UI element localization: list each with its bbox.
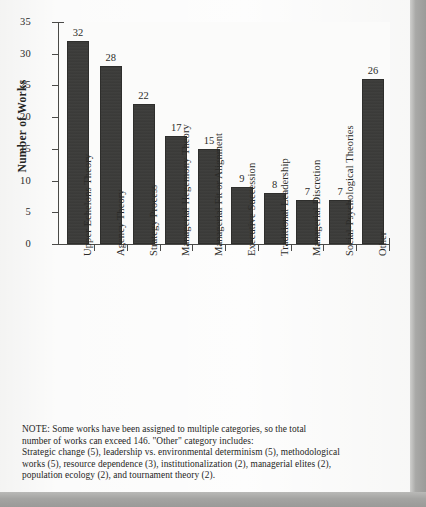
figure-note-line: NOTE: Some works have been assigned to m…: [22, 424, 390, 436]
x-axis-category-label: Managerial Hegemony Theory: [180, 106, 191, 256]
y-axis-line: [58, 22, 59, 245]
y-axis-tick: [52, 22, 58, 23]
x-axis-tick: [323, 245, 324, 251]
x-axis-line: [58, 244, 390, 245]
figure-note-line: population ecology (2), and tournament t…: [22, 470, 390, 482]
bar-value-label: 28: [91, 53, 131, 64]
x-axis-tick: [192, 245, 193, 251]
x-axis-tick: [127, 245, 128, 251]
x-axis-tick: [356, 245, 357, 251]
figure-page: Number of Works 05101520253035 322822171…: [0, 0, 426, 507]
page-edge-right: [410, 0, 426, 492]
x-axis-tick: [94, 245, 95, 251]
y-axis-tick: [52, 244, 58, 245]
x-axis-category-label: Other: [377, 106, 388, 256]
bar-value-label: 26: [353, 66, 393, 77]
bar-value-label: 32: [58, 28, 98, 39]
x-axis-tick: [389, 245, 390, 251]
y-axis-tick: [52, 85, 58, 86]
y-axis-tick-label: 35: [20, 17, 31, 28]
figure-note-line: Strategic change (5), leadership vs. env…: [22, 447, 390, 459]
x-axis-category-label: Traditional Leadership: [279, 106, 290, 256]
y-axis-tick: [52, 54, 58, 55]
x-axis-category-label: Executive Succession: [246, 106, 257, 256]
y-axis-tick: [52, 149, 58, 150]
y-axis-tick-label: 30: [20, 49, 31, 60]
axis-corner-bottom-right: [389, 238, 390, 245]
y-axis-tick: [52, 181, 58, 182]
bar-chart: Number of Works 05101520253035 322822171…: [0, 0, 410, 404]
page-edge-bottom: [0, 492, 426, 507]
x-axis-tick: [258, 245, 259, 251]
y-axis-tick-label: 10: [20, 176, 31, 187]
x-axis-category-label: Managerial Discretion: [311, 106, 322, 256]
y-axis-tick-label: 20: [20, 112, 31, 123]
y-axis-tick: [52, 212, 58, 213]
axis-corner-top-left: [58, 22, 64, 23]
x-axis-tick: [225, 245, 226, 251]
y-axis-tick-label: 25: [20, 80, 31, 91]
x-axis-tick: [291, 245, 292, 251]
y-axis-tick-label: 0: [26, 239, 31, 250]
x-axis-category-label: Upper Echelons Theory: [82, 106, 93, 256]
x-axis-category-label: Managerial Fit or Alignment: [213, 106, 224, 256]
y-axis-tick-label: 15: [20, 144, 31, 155]
y-axis-tick-label: 5: [26, 207, 31, 218]
figure-note-line: works (5), resource dependence (3), inst…: [22, 459, 390, 471]
x-axis-tick: [160, 245, 161, 251]
x-axis-category-label: Agency Theory: [115, 106, 126, 256]
bar-value-label: 22: [124, 91, 164, 102]
figure-note: NOTE: Some works have been assigned to m…: [22, 424, 390, 482]
x-axis-category-label: Strategy Process: [148, 106, 159, 256]
y-axis-tick: [52, 117, 58, 118]
figure-note-line: number of works can exceed 146. "Other" …: [22, 436, 390, 448]
x-axis-category-label: Social-Psychological Theories: [344, 106, 355, 256]
